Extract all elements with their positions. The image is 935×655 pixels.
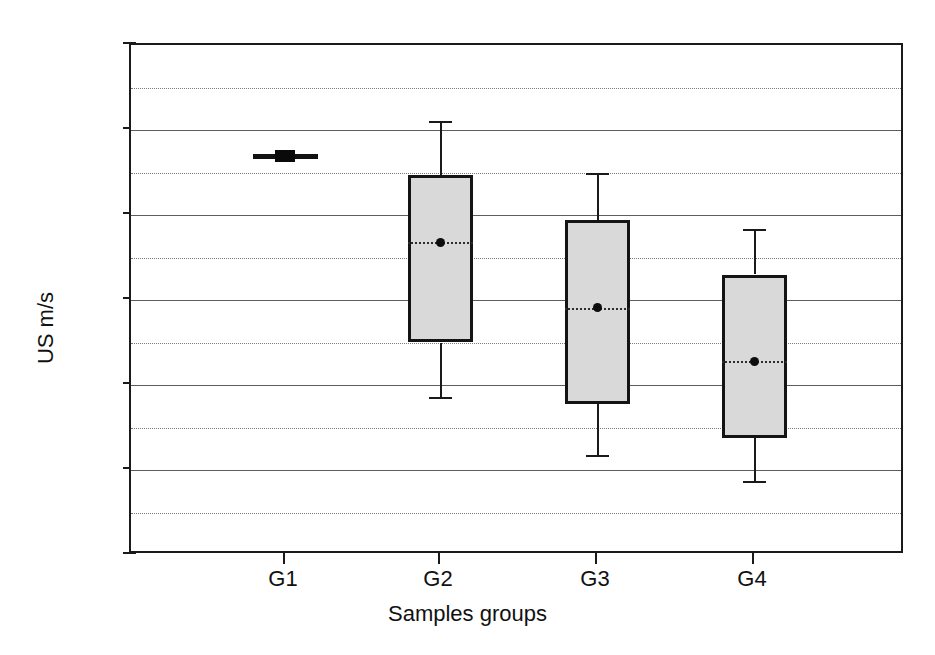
x-tick-mark (595, 553, 597, 564)
whisker-cap-lower (743, 481, 766, 483)
gridline-major (131, 130, 901, 131)
gridline-minor (131, 513, 901, 514)
x-tick-label-g4: G4 (692, 566, 812, 592)
gridline-minor (131, 88, 901, 89)
x-tick-mark (752, 553, 754, 564)
mean-marker (593, 303, 602, 312)
y-axis-title: US m/s (33, 291, 59, 363)
x-tick-label-g1: G1 (223, 566, 343, 592)
gridline-minor (131, 173, 901, 174)
x-tick-label-g2: G2 (378, 566, 498, 592)
gridline-minor (131, 258, 901, 259)
gridline-major (131, 215, 901, 216)
whisker-cap-lower (429, 397, 452, 399)
whisker-lower (754, 438, 756, 481)
whisker-upper (754, 229, 756, 274)
x-tick-label-g3: G3 (535, 566, 655, 592)
x-tick-mark (283, 553, 285, 564)
whisker-lower (597, 404, 599, 455)
mean-marker (436, 238, 445, 247)
box-plot-figure: US m/s 1000200030004000500060007000 G1G2… (0, 0, 935, 655)
whisker-upper (440, 121, 442, 175)
mean-marker (750, 357, 759, 366)
whisker-cap-lower (586, 455, 609, 457)
mean-marker (275, 150, 295, 162)
whisker-cap-upper (429, 121, 452, 123)
box-rect (408, 175, 473, 342)
x-tick-mark (438, 553, 440, 564)
whisker-upper (597, 173, 599, 221)
whisker-cap-upper (743, 229, 766, 231)
gridline-major (131, 470, 901, 471)
whisker-lower (440, 343, 442, 397)
x-axis-title: Samples groups (0, 601, 935, 627)
plot-inner (131, 45, 901, 551)
plot-area (129, 43, 903, 553)
whisker-cap-upper (586, 173, 609, 175)
